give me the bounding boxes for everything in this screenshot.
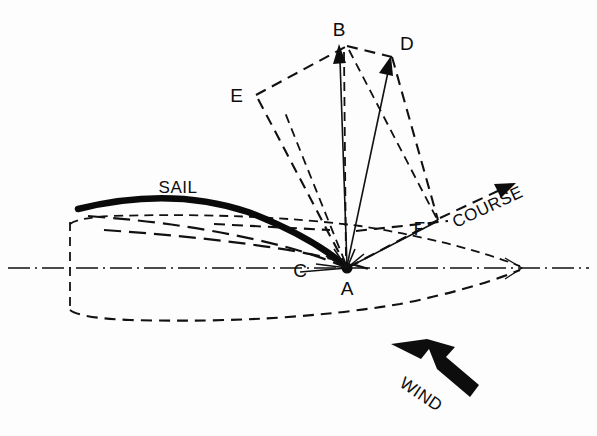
sail-profile <box>78 198 347 268</box>
parallelogram-side-bd <box>347 46 392 57</box>
diagram-canvas: B D E F C A SAIL COURSE WIND <box>0 0 597 436</box>
label-sail: SAIL <box>159 178 198 197</box>
label-point-d: D <box>400 33 414 54</box>
label-point-c: C <box>293 260 307 281</box>
parallelogram-side-df <box>392 57 438 220</box>
parallelogram-side-eb <box>256 46 347 95</box>
sailing-force-diagram: B D E F C A SAIL COURSE WIND <box>0 0 597 436</box>
label-point-e: E <box>230 85 243 106</box>
diagram-labels: B D E F C A SAIL COURSE WIND <box>159 19 526 416</box>
label-point-f: F <box>413 218 425 239</box>
arrowhead-d <box>379 56 393 76</box>
label-point-b: B <box>333 19 346 40</box>
label-course: COURSE <box>449 182 526 231</box>
label-point-a: A <box>341 278 354 299</box>
sail-curve <box>78 198 347 267</box>
vector-a-to-d <box>347 72 388 266</box>
vector-a-to-e <box>284 110 345 262</box>
label-wind: WIND <box>396 373 446 415</box>
